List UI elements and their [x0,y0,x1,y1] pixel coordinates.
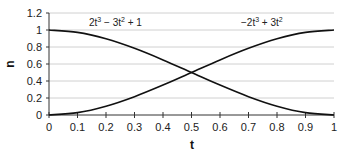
x-tick-label: 0.5 [184,121,199,133]
x-tick-label: 0.1 [70,121,85,133]
y-tick-label: 1 [36,24,42,36]
y-axis-title: n [3,60,17,67]
x-tick-label: 0.3 [127,121,142,133]
x-tick-label: 0 [46,121,52,133]
x-tick-label: 1 [331,121,337,133]
x-tick-label: 0.4 [155,121,170,133]
annotation-series-1: 2t3 − 3t2 + 1 [89,16,142,28]
axes [46,13,334,118]
annotation-series-2: −2t3 + 3t2 [241,16,283,28]
x-tick-label: 0.8 [269,121,284,133]
x-tick-label: 0.6 [212,121,227,133]
y-tick-label: 0 [36,109,42,121]
series-line-2 [49,30,334,115]
x-tick-label: 0.9 [298,121,313,133]
x-tick-label: 0.2 [98,121,113,133]
x-axis-title: t [190,138,194,152]
series-lines [49,30,334,115]
y-tick-label: 0.4 [27,75,42,87]
y-tick-label: 0.6 [27,58,42,70]
y-tick-labels: 00.20.40.60.811.2 [27,7,42,121]
y-tick-label: 1.2 [27,7,42,19]
x-tick-labels: 00.10.20.30.40.50.60.70.80.91 [46,121,337,133]
y-tick-label: 0.2 [27,92,42,104]
hermite-basis-chart: 00.20.40.60.811.2 00.10.20.30.40.50.60.7… [0,0,351,154]
x-tick-label: 0.7 [241,121,256,133]
y-tick-label: 0.8 [27,41,42,53]
